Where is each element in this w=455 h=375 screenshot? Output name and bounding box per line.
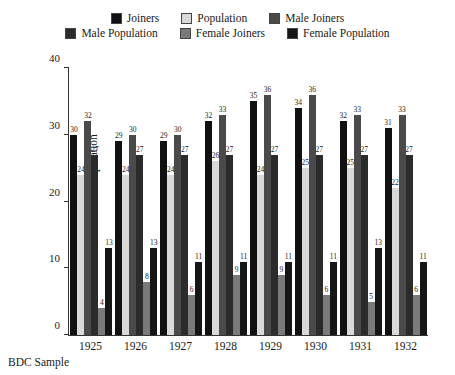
legend-item-female-joiners[interactable]: Female Joiners — [180, 27, 265, 39]
bar[interactable]: 13 — [375, 248, 382, 335]
bar[interactable]: 34 — [295, 108, 302, 335]
bar[interactable]: 9 — [233, 275, 240, 335]
bar[interactable]: 27 — [226, 155, 233, 335]
bar[interactable]: 27 — [136, 155, 143, 335]
x-axis-label: 1928 — [203, 340, 248, 352]
bar[interactable]: 11 — [420, 262, 427, 335]
bar[interactable]: 27 — [271, 155, 278, 335]
bar-slot: 11 — [420, 68, 427, 335]
bar[interactable]: 30 — [129, 135, 136, 335]
bar-slot: 11 — [285, 68, 292, 335]
legend-label-male-population: Male Population — [81, 27, 157, 39]
bar[interactable]: 11 — [330, 262, 337, 335]
chart-caption: BDC Sample — [8, 356, 69, 368]
legend-row-2: Male Population Female Joiners Female Po… — [54, 27, 400, 39]
bar-value-label: 4 — [100, 299, 104, 307]
bar-group: 34253627611 — [293, 68, 338, 335]
bar-slot: 9 — [233, 68, 240, 335]
bar[interactable]: 26 — [212, 161, 219, 335]
bar-slot: 34 — [295, 68, 302, 335]
legend-label-male-joiners: Male Joiners — [285, 12, 344, 24]
bar-slot: 29 — [160, 68, 167, 335]
legend-swatch-population — [181, 13, 192, 24]
bar[interactable]: 9 — [278, 275, 285, 335]
x-axis-labels: 19251926192719281929193019311932 — [68, 340, 428, 352]
legend-swatch-male-joiners — [269, 13, 280, 24]
bar-value-label: 8 — [145, 273, 149, 281]
bar[interactable]: 24 — [257, 175, 264, 335]
bar[interactable]: 6 — [413, 295, 420, 335]
bar-group: 35243627911 — [249, 68, 294, 335]
bar-slot: 33 — [354, 68, 361, 335]
legend-item-female-population[interactable]: Female Population — [287, 27, 390, 39]
bar[interactable]: 27 — [316, 155, 323, 335]
bar-value-label: 9 — [235, 266, 239, 274]
bar[interactable]: 5 — [368, 302, 375, 335]
bar-group: 29243027813 — [114, 68, 159, 335]
bar[interactable]: 13 — [150, 248, 157, 335]
bar-slot: 6 — [323, 68, 330, 335]
bar-slot: 27 — [91, 68, 98, 335]
bar[interactable]: 35 — [250, 101, 257, 335]
bar[interactable]: 27 — [361, 155, 368, 335]
bar[interactable]: 8 — [143, 282, 150, 335]
bar-slot: 32 — [84, 68, 91, 335]
bar[interactable]: 32 — [340, 121, 347, 335]
legend-swatch-female-population — [287, 28, 298, 39]
bar[interactable]: 22 — [392, 188, 399, 335]
bar-slot: 36 — [264, 68, 271, 335]
x-axis-label: 1926 — [113, 340, 158, 352]
bar-slot: 30 — [129, 68, 136, 335]
bar[interactable]: 6 — [323, 295, 330, 335]
bar[interactable]: 27 — [181, 155, 188, 335]
bar-slot: 11 — [195, 68, 202, 335]
legend-swatch-joiners — [111, 13, 122, 24]
bar[interactable]: 24 — [167, 175, 174, 335]
x-axis-label: 1927 — [158, 340, 203, 352]
bar[interactable]: 25 — [347, 168, 354, 335]
bar[interactable]: 24 — [122, 175, 129, 335]
bar-slot: 4 — [98, 68, 105, 335]
bar[interactable]: 11 — [195, 262, 202, 335]
bar-value-label: 9 — [280, 266, 284, 274]
y-tick-label: 20 — [49, 187, 60, 197]
bar-slot: 30 — [174, 68, 181, 335]
legend-item-male-population[interactable]: Male Population — [65, 27, 157, 39]
y-tick-label: 30 — [49, 120, 60, 130]
bar-group: 30243227413 — [69, 68, 114, 335]
legend-label-female-joiners: Female Joiners — [196, 27, 265, 39]
x-axis-label: 1929 — [248, 340, 293, 352]
bar[interactable]: 24 — [77, 175, 84, 335]
bar-value-label: 6 — [324, 286, 328, 294]
bar[interactable]: 36 — [264, 95, 271, 335]
bar-slot: 24 — [77, 68, 84, 335]
bar-slot: 27 — [226, 68, 233, 335]
bar-slot: 30 — [70, 68, 77, 335]
bar-groups: 3024322741329243027813292430276113226332… — [69, 68, 428, 335]
bar[interactable]: 30 — [174, 135, 181, 335]
bar[interactable]: 11 — [285, 262, 292, 335]
legend-item-population[interactable]: Population — [181, 12, 247, 24]
bar-value-label: 5 — [369, 293, 373, 301]
bar-value-label: 6 — [190, 286, 194, 294]
bar[interactable]: 31 — [385, 128, 392, 335]
chart-legend: Joiners Population Male Joiners Male Pop… — [0, 12, 455, 39]
y-tick-label: 0 — [55, 320, 61, 330]
bar-slot: 27 — [361, 68, 368, 335]
bar[interactable]: 25 — [302, 168, 309, 335]
bar[interactable]: 27 — [91, 155, 98, 335]
bar[interactable]: 27 — [406, 155, 413, 335]
bar[interactable]: 6 — [188, 295, 195, 335]
bar-slot: 8 — [143, 68, 150, 335]
bar[interactable]: 13 — [105, 248, 112, 335]
bar[interactable]: 11 — [240, 262, 247, 335]
bar-slot: 36 — [309, 68, 316, 335]
bar[interactable]: 4 — [98, 308, 105, 335]
bar-slot: 11 — [240, 68, 247, 335]
legend-item-joiners[interactable]: Joiners — [111, 12, 160, 24]
bar-slot: 24 — [257, 68, 264, 335]
legend-item-male-joiners[interactable]: Male Joiners — [269, 12, 344, 24]
bar-slot: 35 — [250, 68, 257, 335]
bar[interactable]: 36 — [309, 95, 316, 335]
bar-slot: 32 — [340, 68, 347, 335]
